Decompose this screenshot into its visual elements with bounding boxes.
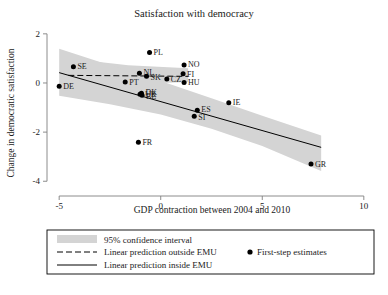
data-point-label-GR: GR: [315, 160, 327, 169]
data-point-label-FR: FR: [142, 138, 152, 147]
data-point-FR: [136, 140, 141, 145]
y-tick-label-0: 0: [36, 78, 41, 88]
data-point-GR: [309, 162, 314, 167]
chart-legend: 95% confidence interval Linear predictio…: [47, 230, 374, 274]
legend-label-first-step-estimates: First-step estimates: [257, 247, 327, 257]
x-tick-label--5: -5: [55, 201, 63, 211]
data-point-NL: [137, 71, 142, 76]
data-point-label-PT: PT: [129, 78, 138, 87]
data-point-CZ: [164, 77, 169, 82]
data-point-label-DE: DE: [63, 82, 74, 91]
chart-title: Satisfaction with democracy: [134, 8, 254, 19]
data-point-label-PL: PL: [154, 48, 163, 57]
legend-label-inside-emu: Linear prediction inside EMU: [104, 260, 213, 270]
chart-figure: Satisfaction with democracy -50510 20-2-…: [0, 0, 388, 295]
data-point-label-FI: FI: [187, 70, 194, 79]
data-point-IE: [226, 100, 231, 105]
data-point-SE: [71, 64, 76, 69]
data-point-NO: [182, 63, 187, 68]
satisfaction-scatter-plot: Satisfaction with democracy -50510 20-2-…: [0, 0, 388, 295]
x-axis-title: GDP contraction between 2004 and 2010: [134, 205, 291, 215]
data-point-label-SK: SK: [151, 73, 161, 82]
data-point-PL: [147, 50, 152, 55]
legend-label-outside-emu: Linear prediction outside EMU: [104, 247, 217, 257]
data-point-HU: [182, 80, 187, 85]
data-point-SK: [144, 74, 149, 79]
x-tick-label-10: 10: [359, 201, 369, 211]
data-point-DE: [57, 84, 62, 89]
y-axis-title: Change in democratic satisfaction: [6, 48, 16, 177]
legend-marker-dot: [247, 249, 252, 254]
data-point-label-IE: IE: [233, 98, 241, 107]
y-axis-ticks: 20-2-4: [33, 29, 48, 186]
data-point-UK: [138, 92, 143, 97]
y-tick-label--2: -2: [33, 127, 41, 137]
data-point-label-UK: UK: [145, 90, 157, 99]
data-point-label-CZ: CZ: [171, 75, 181, 84]
data-point-label-SI: SI: [198, 113, 205, 122]
data-point-FI: [181, 71, 186, 76]
legend-label-ci: 95% confidence interval: [104, 235, 192, 245]
y-tick-label-2: 2: [36, 29, 41, 39]
data-point-PT: [123, 79, 128, 84]
data-point-label-HU: HU: [188, 78, 200, 87]
data-point-label-SE: SE: [77, 62, 86, 71]
y-tick-label--4: -4: [33, 176, 41, 186]
legend-marker-ci-band: [57, 235, 97, 243]
data-point-SI: [192, 114, 197, 119]
data-point-label-NO: NO: [188, 60, 200, 69]
